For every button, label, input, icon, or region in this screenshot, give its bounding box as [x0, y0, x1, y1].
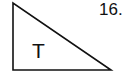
problem-number: 16.	[99, 1, 123, 19]
triangle-shape	[13, 3, 111, 70]
triangle-label: T	[32, 40, 45, 61]
